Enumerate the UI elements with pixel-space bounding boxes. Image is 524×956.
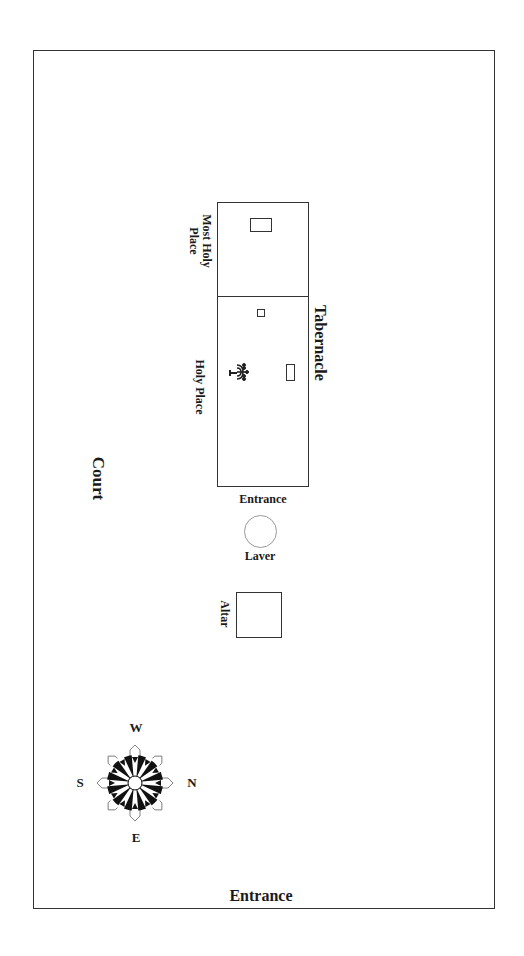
compass-west-label: W <box>126 721 146 734</box>
veil-divider <box>217 296 309 297</box>
laver-label: Laver <box>230 550 290 562</box>
court-entrance-label: Entrance <box>196 888 326 904</box>
incense-altar-icon <box>257 309 265 317</box>
compass-north-label: N <box>182 776 202 789</box>
showbread-table-icon <box>286 364 295 381</box>
tabernacle-entrance-label: Entrance <box>217 493 309 505</box>
compass-east-label: E <box>126 831 146 844</box>
most-holy-place-label: Most Holy Place <box>187 201 213 281</box>
tabernacle-structure <box>217 202 309 487</box>
altar-icon <box>236 592 282 638</box>
altar-label: Altar <box>219 594 231 634</box>
most-holy-line2: Place <box>187 201 200 281</box>
lampstand-icon <box>228 361 250 383</box>
tabernacle-label: Tabernacle <box>312 293 328 393</box>
compass-rose-icon <box>90 738 180 828</box>
court-label: Court <box>90 451 107 507</box>
holy-place-label: Holy Place <box>194 347 206 427</box>
laver-icon <box>244 515 277 548</box>
most-holy-line1: Most Holy <box>200 201 213 281</box>
ark-icon <box>250 218 272 232</box>
compass-south-label: S <box>70 776 90 789</box>
